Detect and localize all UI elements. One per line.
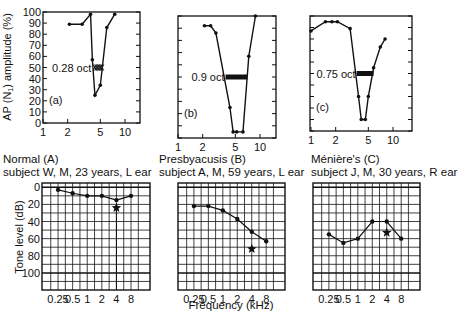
panel-label: (c) <box>316 101 329 113</box>
data-point <box>372 66 376 70</box>
data-point <box>348 27 352 31</box>
data-point <box>228 106 232 110</box>
y-tick-label: 20 <box>29 95 41 107</box>
data-point <box>364 118 368 122</box>
x-tick-label: 0.5 <box>65 293 80 305</box>
y-tick-label: 10 <box>29 106 41 118</box>
data-point <box>203 24 207 28</box>
data-point <box>341 241 345 245</box>
data-point <box>357 95 361 99</box>
data-point <box>327 232 331 236</box>
data-point <box>383 37 387 41</box>
data-point <box>359 118 363 122</box>
data-point <box>367 95 371 99</box>
data-point <box>100 194 104 198</box>
data-point <box>105 26 109 30</box>
x-tick-label: 10 <box>119 126 131 138</box>
data-point <box>254 14 258 18</box>
data-point <box>231 130 235 134</box>
y-tick-label: 40 <box>29 73 41 85</box>
y-tick-label: 60 <box>29 50 41 62</box>
x-tick-label: 1 <box>308 134 314 146</box>
bandwidth-bar <box>357 71 374 76</box>
x-tick-label: 8 <box>398 293 404 305</box>
data-point <box>330 20 334 24</box>
x-tick-label: 4 <box>113 293 119 305</box>
x-tick-label: 1 <box>40 126 46 138</box>
data-point <box>235 130 239 134</box>
data-point <box>70 191 74 195</box>
data-point <box>68 22 72 26</box>
title-normal: Normal (A) <box>3 153 59 166</box>
bandwidth-bar <box>226 75 248 80</box>
audiogram-panel-A: 0204060801000.250.51248 <box>22 181 150 305</box>
data-point <box>356 236 360 240</box>
y-tick-label: 20 <box>28 198 40 210</box>
x-tick-label: 10 <box>254 141 266 153</box>
axis-label-amplitude: AP (N1) amplitude (%) <box>1 13 14 121</box>
x-tick-label: 8 <box>128 293 134 305</box>
data-point <box>336 20 340 24</box>
data-point <box>114 198 118 202</box>
y-tick-label: 60 <box>28 233 40 245</box>
x-tick-label: 5 <box>232 141 238 153</box>
bandwidth-label: 0.28 oct <box>52 62 91 74</box>
data-point <box>264 239 268 243</box>
data-point <box>385 219 389 223</box>
audiogram-panel-B: 0.250.51248 <box>178 183 285 305</box>
bandwidth-label: 0.9 oct <box>192 71 225 83</box>
x-tick-label: 2 <box>200 141 206 153</box>
axis-label-frequency: Frequency (kHz) <box>189 299 274 311</box>
x-tick-label: 2 <box>99 293 105 305</box>
panel-label: (a) <box>49 94 62 106</box>
data-point <box>324 20 328 24</box>
bandwidth-label: 0.75 oct <box>316 68 355 80</box>
subtitle-normal: subject W, M, 23 years, L ear <box>3 166 152 179</box>
data-point <box>209 24 213 28</box>
y-tick-label: 30 <box>29 84 41 96</box>
data-point <box>129 194 133 198</box>
data-point <box>247 54 251 58</box>
y-tick-label: 90 <box>29 17 41 29</box>
x-tick-label: 2 <box>333 134 339 146</box>
y-tick-label: 40 <box>28 216 40 228</box>
y-tick-label: 70 <box>29 39 41 51</box>
subtitle-menieres: subject J, M, 30 years, R ear <box>311 166 457 179</box>
tuning-curve-panel-b: 125100.9 oct(b) <box>175 14 276 153</box>
data-point <box>250 230 254 234</box>
x-tick-label: 1 <box>355 293 361 305</box>
data-point <box>85 194 89 198</box>
data-point <box>378 45 382 49</box>
tuning-curve-panel-a: 0102030405060708090100125100.28 oct(a) <box>23 6 140 138</box>
data-point <box>91 58 95 62</box>
data-point <box>221 208 225 212</box>
panel-label: (b) <box>184 107 197 119</box>
x-tick-label: 0.5 <box>336 293 351 305</box>
y-tick-label: 80 <box>29 28 41 40</box>
data-point <box>192 204 196 208</box>
x-tick-label: 5 <box>365 134 371 146</box>
data-point <box>214 31 218 35</box>
y-tick-label: 80 <box>28 250 40 262</box>
title-presbyacusis: Presbyacusis (B) <box>159 153 246 166</box>
data-point <box>235 217 239 221</box>
data-point <box>206 204 210 208</box>
title-menieres: Ménière's (C) <box>311 153 380 166</box>
x-tick-label: 5 <box>97 126 103 138</box>
x-tick-label: 1 <box>84 293 90 305</box>
y-tick-label: 50 <box>29 62 41 74</box>
data-point <box>241 130 245 134</box>
data-point <box>399 236 403 240</box>
x-tick-label: 4 <box>384 293 390 305</box>
data-point <box>113 12 117 16</box>
data-point <box>370 219 374 223</box>
data-point <box>80 22 84 26</box>
data-point <box>56 188 60 192</box>
x-tick-label: 2 <box>65 126 71 138</box>
tuning-curve-panel-c: 125100.75 oct(c) <box>308 16 412 146</box>
subtitle-presbyacusis: subject A, M, 59 years, L ear <box>159 166 304 179</box>
data-point <box>89 12 93 16</box>
data-point <box>99 83 103 87</box>
audiogram-panel-C: 0.250.51248 <box>313 183 420 305</box>
data-point <box>309 29 313 33</box>
